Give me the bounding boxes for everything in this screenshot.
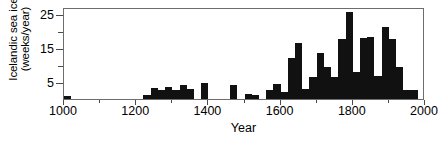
y-axis-tick — [56, 15, 63, 16]
x-axis-title: Year — [63, 121, 424, 135]
bar — [367, 37, 374, 99]
bar — [64, 96, 71, 99]
bar — [396, 67, 403, 99]
x-axis-minor-tick — [388, 100, 389, 103]
plot-area — [63, 8, 424, 100]
bar — [230, 85, 237, 99]
bar — [201, 83, 208, 99]
bar — [245, 94, 252, 99]
bar — [187, 89, 194, 99]
y-axis-tick — [56, 49, 63, 50]
x-axis-minor-tick — [316, 100, 317, 103]
bar — [374, 76, 381, 100]
x-axis-tick-label: 2000 — [410, 104, 438, 118]
bar — [165, 87, 172, 99]
x-axis-tick-label: 1200 — [121, 104, 149, 118]
bar — [403, 90, 410, 99]
x-axis-tick-label: 1000 — [49, 104, 77, 118]
y-axis-tick — [56, 83, 63, 84]
bar — [309, 77, 316, 99]
y-axis-title-line-1: Icelandic sea ice — [7, 0, 19, 81]
bar — [360, 38, 367, 99]
bar — [353, 72, 360, 99]
y-axis-tick-label: 15 — [20, 42, 54, 56]
bar — [252, 95, 259, 99]
x-axis-tick-label: 1800 — [338, 104, 366, 118]
bar — [324, 67, 331, 99]
y-axis-tick-label: 25 — [20, 8, 54, 22]
bar — [389, 39, 396, 99]
x-axis-minor-tick — [244, 100, 245, 103]
y-axis-tick-label: 5 — [20, 76, 54, 90]
bar — [331, 77, 338, 99]
bar — [302, 89, 309, 99]
bar — [346, 12, 353, 99]
bar — [151, 88, 158, 99]
bar — [158, 90, 165, 99]
bar-series — [64, 9, 423, 99]
bar — [288, 58, 295, 99]
x-axis-minor-tick — [99, 100, 100, 103]
x-axis-tick-label: 1400 — [193, 104, 221, 118]
bar — [180, 85, 187, 99]
bar — [143, 95, 150, 99]
bar — [317, 53, 324, 99]
bar — [295, 43, 302, 99]
bar — [281, 92, 288, 99]
bar — [266, 90, 273, 99]
x-axis-tick-label: 1600 — [266, 104, 294, 118]
bar — [273, 84, 280, 99]
bar — [411, 90, 418, 99]
bar — [338, 39, 345, 99]
bar — [382, 27, 389, 99]
bar — [172, 90, 179, 99]
x-axis-minor-tick — [171, 100, 172, 103]
